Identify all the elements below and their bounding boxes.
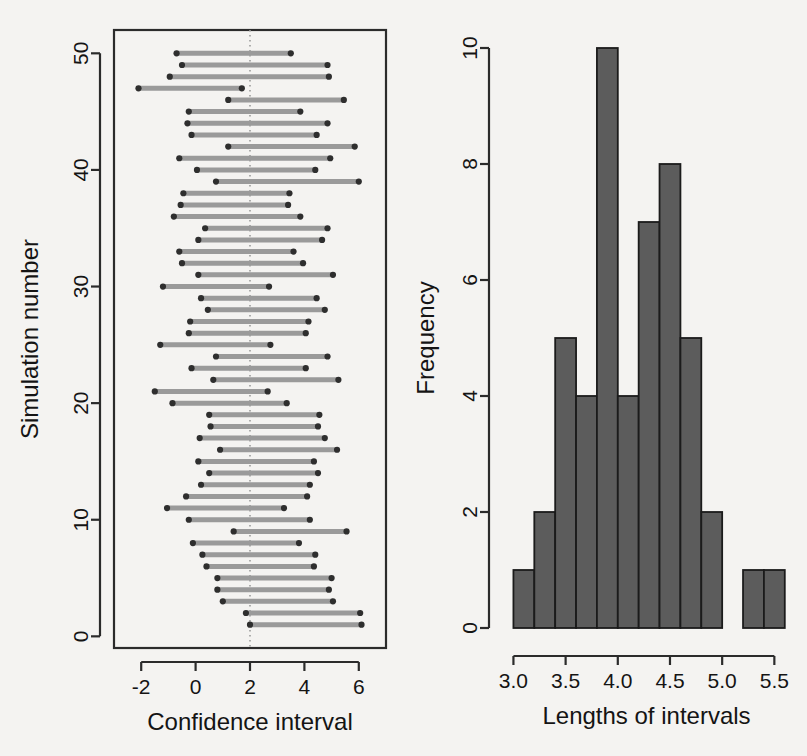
- confidence-interval[interactable]: [157, 342, 273, 348]
- ci-panel: [91, 30, 386, 671]
- confidence-interval[interactable]: [169, 400, 289, 406]
- ci-y-tick-label: 0: [69, 630, 92, 642]
- histogram-bar[interactable]: [680, 338, 701, 628]
- confidence-interval[interactable]: [135, 85, 245, 91]
- confidence-interval[interactable]: [199, 552, 318, 558]
- ci-y-tick-label: 20: [69, 391, 92, 414]
- confidence-interval[interactable]: [225, 97, 347, 103]
- interval-upper-endpoint: [303, 330, 309, 336]
- interval-upper-endpoint: [290, 248, 296, 254]
- confidence-interval[interactable]: [247, 622, 365, 628]
- interval-lower-endpoint: [206, 470, 212, 476]
- histogram-bar[interactable]: [660, 164, 681, 628]
- interval-upper-endpoint: [266, 283, 272, 289]
- interval-lower-endpoint: [157, 342, 163, 348]
- confidence-interval[interactable]: [188, 132, 319, 138]
- confidence-interval[interactable]: [184, 120, 330, 126]
- histogram-bar[interactable]: [597, 48, 618, 628]
- confidence-interval[interactable]: [194, 167, 319, 173]
- confidence-interval[interactable]: [206, 470, 321, 476]
- interval-lower-endpoint: [186, 330, 192, 336]
- confidence-interval[interactable]: [173, 50, 293, 56]
- histogram-bar[interactable]: [534, 512, 555, 628]
- hist-y-tick-label: 2: [458, 506, 481, 518]
- interval-upper-endpoint: [352, 144, 358, 150]
- confidence-interval[interactable]: [203, 563, 317, 569]
- confidence-interval[interactable]: [205, 307, 328, 313]
- interval-lower-endpoint: [198, 482, 204, 488]
- interval-lower-endpoint: [194, 167, 200, 173]
- confidence-interval[interactable]: [176, 248, 296, 254]
- hist-y-tick-label: 8: [458, 158, 481, 170]
- histogram-bar[interactable]: [764, 570, 785, 628]
- histogram-bar[interactable]: [555, 338, 576, 628]
- confidence-interval[interactable]: [186, 330, 309, 336]
- confidence-interval[interactable]: [195, 272, 336, 278]
- confidence-interval[interactable]: [195, 458, 317, 464]
- interval-lower-endpoint: [179, 260, 185, 266]
- confidence-interval[interactable]: [187, 318, 312, 324]
- confidence-interval[interactable]: [225, 144, 358, 150]
- confidence-interval[interactable]: [160, 283, 272, 289]
- confidence-interval[interactable]: [164, 505, 287, 511]
- interval-upper-endpoint: [324, 62, 330, 68]
- confidence-interval[interactable]: [186, 109, 304, 115]
- confidence-interval[interactable]: [195, 237, 325, 243]
- interval-lower-endpoint: [206, 412, 212, 418]
- confidence-interval[interactable]: [178, 202, 292, 208]
- confidence-interval[interactable]: [214, 587, 332, 593]
- confidence-interval[interactable]: [213, 353, 331, 359]
- interval-upper-endpoint: [311, 563, 317, 569]
- confidence-interval[interactable]: [217, 447, 340, 453]
- confidence-interval[interactable]: [167, 74, 332, 80]
- histogram-bar[interactable]: [576, 396, 597, 628]
- confidence-interval[interactable]: [231, 528, 350, 534]
- confidence-interval[interactable]: [210, 377, 341, 383]
- interval-upper-endpoint: [307, 482, 313, 488]
- interval-lower-endpoint: [213, 178, 219, 184]
- confidence-interval[interactable]: [198, 482, 313, 488]
- interval-upper-endpoint: [326, 74, 332, 80]
- interval-upper-endpoint: [356, 178, 362, 184]
- interval-upper-endpoint: [324, 120, 330, 126]
- interval-upper-endpoint: [330, 272, 336, 278]
- interval-upper-endpoint: [311, 458, 317, 464]
- interval-lower-endpoint: [199, 552, 205, 558]
- hist-y-tick-label: 0: [458, 622, 481, 634]
- hist-y-tick-label: 6: [458, 274, 481, 286]
- confidence-interval[interactable]: [214, 575, 334, 581]
- confidence-interval[interactable]: [152, 388, 271, 394]
- confidence-interval[interactable]: [183, 493, 310, 499]
- interval-lower-endpoint: [176, 248, 182, 254]
- confidence-interval[interactable]: [180, 190, 292, 196]
- confidence-interval[interactable]: [197, 435, 328, 441]
- confidence-interval[interactable]: [186, 517, 313, 523]
- confidence-interval[interactable]: [213, 178, 362, 184]
- ci-y-tick-label: 30: [69, 275, 92, 298]
- interval-upper-endpoint: [284, 400, 290, 406]
- confidence-interval[interactable]: [220, 598, 336, 604]
- interval-upper-endpoint: [296, 540, 302, 546]
- confidence-interval[interactable]: [243, 610, 363, 616]
- histogram-bar[interactable]: [639, 222, 660, 628]
- confidence-interval[interactable]: [179, 260, 306, 266]
- ci-y-tick-label: 40: [69, 158, 92, 181]
- histogram-bar[interactable]: [513, 570, 534, 628]
- confidence-interval[interactable]: [198, 295, 320, 301]
- confidence-interval[interactable]: [190, 540, 302, 546]
- histogram-bar[interactable]: [618, 396, 639, 628]
- interval-upper-endpoint: [281, 505, 287, 511]
- interval-lower-endpoint: [171, 213, 177, 219]
- interval-lower-endpoint: [225, 144, 231, 150]
- confidence-interval[interactable]: [171, 213, 304, 219]
- histogram-bar[interactable]: [701, 512, 722, 628]
- confidence-interval[interactable]: [176, 155, 333, 161]
- confidence-interval[interactable]: [202, 225, 331, 231]
- confidence-interval[interactable]: [188, 365, 308, 371]
- confidence-interval[interactable]: [207, 423, 321, 429]
- ci-y-tick-label: 10: [69, 508, 92, 531]
- confidence-interval[interactable]: [179, 62, 331, 68]
- histogram-bar[interactable]: [743, 570, 764, 628]
- confidence-interval[interactable]: [206, 412, 322, 418]
- ci-x-tick-label: -2: [132, 675, 151, 698]
